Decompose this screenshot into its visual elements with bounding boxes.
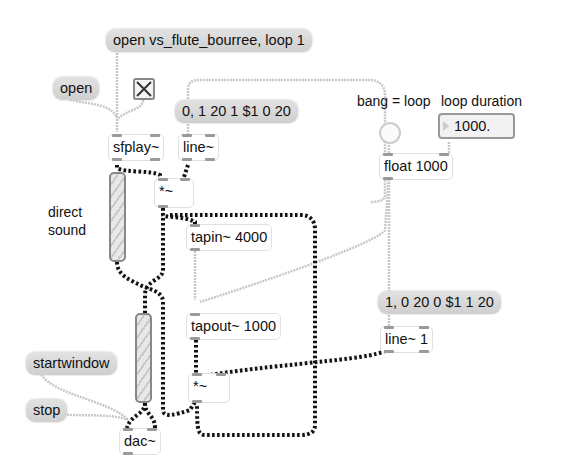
line-envelope-out-message[interactable]: 1, 0 20 0 $1 1 20 bbox=[378, 291, 501, 314]
inlet bbox=[205, 134, 215, 137]
direct-sound-gain-slider[interactable] bbox=[109, 172, 126, 262]
inlet bbox=[180, 178, 190, 181]
loop-bang-button[interactable] bbox=[379, 122, 401, 144]
inlet bbox=[147, 428, 157, 431]
inlet bbox=[419, 326, 429, 329]
open-message[interactable]: open bbox=[53, 77, 99, 100]
inlet bbox=[150, 134, 160, 137]
multiply-label: *~ bbox=[159, 183, 173, 199]
float-object[interactable]: float 1000 bbox=[379, 153, 453, 180]
line-1-object[interactable]: line~ 1 bbox=[380, 326, 433, 353]
inlet bbox=[216, 373, 226, 376]
line-envelope-in-message[interactable]: 0, 1 20 1 $1 0 20 bbox=[175, 100, 298, 123]
loop-toggle[interactable] bbox=[133, 78, 155, 100]
dac-label: dac~ bbox=[124, 433, 156, 449]
tapout-object[interactable]: tapout~ 1000 bbox=[186, 313, 281, 340]
direct-sound-comment: direct sound bbox=[48, 204, 86, 239]
open-file-message[interactable]: open vs_flute_bourree, loop 1 bbox=[106, 29, 312, 52]
sfplay-object[interactable]: sfplay~ bbox=[108, 134, 164, 161]
multiply-signal-object-2[interactable]: *~ bbox=[188, 373, 230, 403]
line-1-label: line~ 1 bbox=[385, 331, 428, 347]
outlet bbox=[205, 158, 215, 161]
number-value: 1000. bbox=[454, 118, 490, 134]
sfplay-label: sfplay~ bbox=[113, 139, 159, 155]
loop-duration-comment: loop duration bbox=[441, 93, 522, 111]
tapout-label: tapout~ 1000 bbox=[191, 318, 276, 334]
x-mark-icon bbox=[135, 80, 153, 98]
outlet bbox=[150, 158, 160, 161]
multiply-signal-object-1[interactable]: *~ bbox=[154, 178, 194, 208]
stop-message[interactable]: stop bbox=[26, 399, 67, 422]
output-gain-slider[interactable] bbox=[135, 313, 152, 403]
startwindow-message[interactable]: startwindow bbox=[26, 352, 117, 375]
line-object[interactable]: line~ bbox=[178, 134, 219, 161]
line-label: line~ bbox=[183, 139, 214, 155]
float-label: float 1000 bbox=[384, 158, 448, 174]
outlet bbox=[419, 350, 429, 353]
loop-duration-number-box[interactable]: 1000. bbox=[438, 113, 515, 139]
dac-object[interactable]: dac~ bbox=[119, 428, 161, 455]
multiply-label: *~ bbox=[193, 378, 207, 394]
tapin-label: tapin~ 4000 bbox=[191, 229, 267, 245]
bang-loop-comment: bang = loop bbox=[357, 93, 431, 111]
tapin-object[interactable]: tapin~ 4000 bbox=[186, 224, 272, 251]
inlet bbox=[439, 153, 449, 156]
